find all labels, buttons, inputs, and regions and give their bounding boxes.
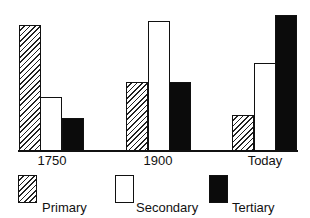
black-swatch-icon <box>209 175 228 203</box>
legend-line: Primary <box>42 201 88 215</box>
category-label-1750: 1750 <box>22 154 82 168</box>
industry-bar-chart: 17501900Today Primary industry Secondary… <box>0 0 310 218</box>
legend-label-tertiary: Tertiary industry <box>232 174 278 218</box>
bar-primary-1750 <box>19 25 41 151</box>
bar-secondary-1900 <box>148 21 170 151</box>
bar-primary-1900 <box>126 82 148 151</box>
bar-primary-today <box>232 115 254 151</box>
category-label-today: Today <box>235 154 295 168</box>
bar-tertiary-1900 <box>169 82 191 151</box>
legend-line: Secondary <box>136 201 198 215</box>
x-axis-line <box>18 150 298 152</box>
bar-tertiary-today <box>275 15 297 151</box>
bar-tertiary-1750 <box>62 118 84 151</box>
bar-secondary-1750 <box>40 97 62 151</box>
white-swatch-icon <box>115 175 134 203</box>
bar-secondary-today <box>254 63 276 151</box>
hatched-swatch-icon <box>18 175 37 203</box>
category-label-1900: 1900 <box>128 154 188 168</box>
legend-line: Tertiary <box>232 201 278 215</box>
legend-label-secondary: Secondary industry <box>136 174 198 218</box>
legend-label-primary: Primary industry <box>42 174 88 218</box>
